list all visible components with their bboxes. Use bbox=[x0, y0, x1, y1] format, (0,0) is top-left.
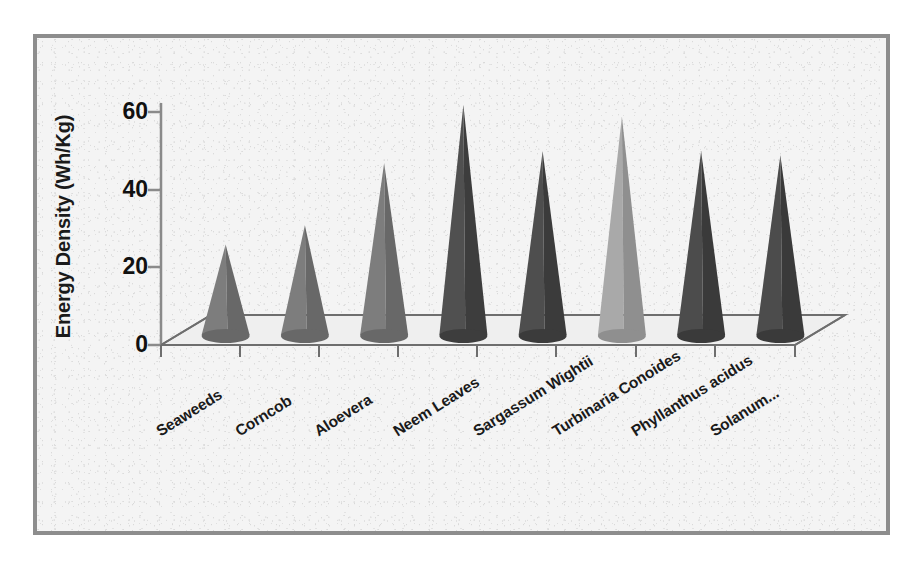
y-axis-title: Energy Density (Wh/Kg) bbox=[52, 112, 75, 342]
y-tick-label-20: 20 bbox=[122, 255, 148, 278]
y-tick-label-60: 60 bbox=[122, 100, 148, 123]
y-tick-label-0: 0 bbox=[135, 333, 148, 356]
paper-noise-texture bbox=[37, 38, 886, 531]
screenshot-canvas: Energy Density (Wh/Kg) 60 40 20 0 Seawee… bbox=[0, 0, 918, 564]
y-tick-label-40: 40 bbox=[122, 178, 148, 201]
chart-figure-frame bbox=[33, 34, 890, 535]
y-axis-tick-labels: 60 40 20 0 bbox=[90, 0, 148, 564]
